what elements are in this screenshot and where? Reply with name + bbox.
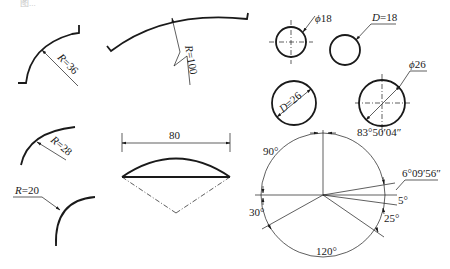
circle-d26: D=26	[272, 81, 316, 125]
chord-dimension-label: 80	[169, 129, 181, 141]
angle-6-label: 6°09′56″	[402, 167, 441, 179]
circle-phi18: ϕ18	[269, 12, 332, 64]
diameter-line	[366, 86, 400, 120]
angle-90-label: 90°	[263, 145, 278, 157]
angle-120-label: 120°	[316, 245, 337, 257]
arc-r28: R=28	[21, 127, 75, 165]
r28-label: R=28	[48, 133, 75, 159]
arc-r36: R=36	[18, 25, 81, 86]
r20-label: R=20	[14, 184, 39, 196]
circle-d18: D=18	[330, 11, 398, 65]
leader	[356, 24, 396, 40]
angle-5-label: 5°	[398, 194, 408, 206]
angle-25-label: 25°	[384, 212, 399, 224]
arc-r100: R=100	[107, 13, 248, 85]
circle-phi26: ϕ26	[355, 58, 427, 132]
leader	[13, 197, 60, 210]
angle-diagram: 90° 83°50′04″ 6°09′56″ 5° 25° 120° 30°	[249, 126, 441, 257]
dimensioning-drawing: 图... R=36 R=100 ϕ18 D=18 D=26 ϕ26	[0, 0, 450, 269]
caption-fragment: 图...	[20, 0, 36, 8]
angle-83-label: 83°50′04″	[357, 126, 401, 138]
leader	[303, 16, 315, 32]
d18-label: D=18	[371, 11, 398, 23]
arc-r20: R=20	[13, 184, 95, 246]
leader	[400, 71, 427, 86]
r100-label: R=100	[183, 43, 200, 76]
phi26-label: ϕ26	[409, 58, 426, 70]
r36-label: R=36	[55, 50, 81, 76]
d26-label: D=26	[276, 89, 304, 115]
angle-30-label: 30°	[249, 206, 264, 218]
sector-chord: 80	[122, 129, 230, 213]
phi18-label: ϕ18	[315, 12, 332, 24]
arc	[122, 159, 230, 178]
